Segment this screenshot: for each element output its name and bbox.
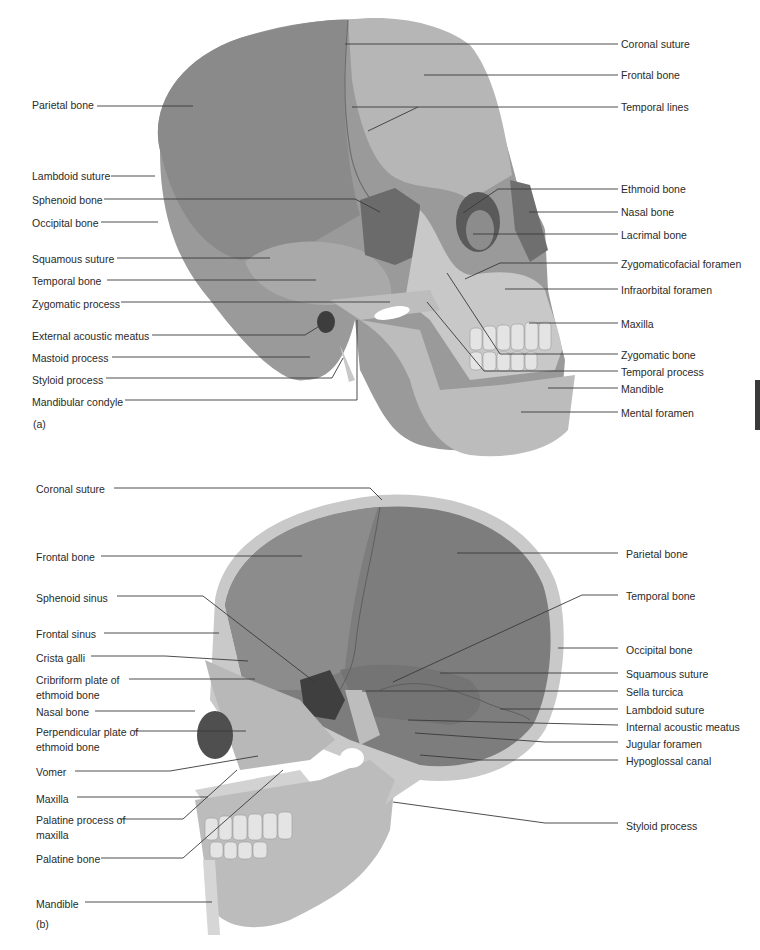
label-frontal-bone: Frontal bone bbox=[36, 551, 95, 564]
label-nasal-bone: Nasal bone bbox=[621, 206, 674, 219]
label-mandible: Mandible bbox=[36, 898, 79, 911]
label-parietal-bone: Parietal bone bbox=[626, 548, 688, 561]
skull-figure: Parietal boneLambdoid sutureSphenoid bon… bbox=[0, 0, 760, 950]
lateral-skull-view bbox=[158, 18, 575, 456]
label-mandible: Mandible bbox=[621, 383, 664, 396]
label-jugular-foramen: Jugular foramen bbox=[626, 738, 702, 751]
label-cribriform-plate-of-ethmoid-bone: Cribriform plate of ethmoid bone bbox=[36, 673, 146, 703]
label-internal-acoustic-meatus: Internal acoustic meatus bbox=[626, 721, 740, 734]
label-lambdoid-suture: Lambdoid suture bbox=[32, 170, 110, 183]
label-styloid-process: Styloid process bbox=[32, 374, 103, 387]
label-squamous-suture: Squamous suture bbox=[32, 253, 114, 266]
label-frontal-sinus: Frontal sinus bbox=[36, 628, 96, 641]
label-coronal-suture: Coronal suture bbox=[621, 38, 690, 51]
label-temporal-lines: Temporal lines bbox=[621, 101, 689, 114]
label-sella-turcica: Sella turcica bbox=[626, 686, 683, 699]
label-crista-galli: Crista galli bbox=[36, 652, 85, 665]
label-parietal-bone: Parietal bone bbox=[32, 99, 94, 112]
label-sphenoid-bone: Sphenoid bone bbox=[32, 194, 103, 207]
page-edge-tab bbox=[755, 380, 760, 430]
label-infraorbital-foramen: Infraorbital foramen bbox=[621, 284, 712, 297]
label-occipital-bone: Occipital bone bbox=[626, 644, 693, 657]
label-temporal-bone: Temporal bone bbox=[32, 275, 101, 288]
label-external-acoustic-meatus: External acoustic meatus bbox=[32, 330, 149, 343]
panel-a-tag: (a) bbox=[33, 418, 46, 430]
leader-line bbox=[75, 756, 258, 771]
label-perpendicular-plate-of-ethmoid-bone: Perpendicular plate of ethmoid bone bbox=[36, 725, 146, 755]
label-mental-foramen: Mental foramen bbox=[621, 407, 694, 420]
label-hypoglossal-canal: Hypoglossal canal bbox=[626, 755, 711, 768]
label-maxilla: Maxilla bbox=[36, 793, 69, 806]
label-coronal-suture: Coronal suture bbox=[36, 483, 105, 496]
label-palatine-process-of-maxilla: Palatine process of maxilla bbox=[36, 813, 146, 843]
skull-illustration bbox=[0, 0, 760, 950]
label-nasal-bone: Nasal bone bbox=[36, 706, 89, 719]
label-vomer: Vomer bbox=[36, 766, 66, 779]
label-maxilla: Maxilla bbox=[621, 318, 654, 331]
label-sphenoid-sinus: Sphenoid sinus bbox=[36, 592, 108, 605]
label-squamous-suture: Squamous suture bbox=[626, 668, 708, 681]
label-zygomatic-bone: Zygomatic bone bbox=[621, 349, 696, 362]
label-palatine-bone: Palatine bone bbox=[36, 853, 100, 866]
label-mandibular-condyle: Mandibular condyle bbox=[32, 396, 123, 409]
leader-line bbox=[114, 488, 382, 500]
sagittal-skull-view bbox=[195, 494, 564, 935]
label-frontal-bone: Frontal bone bbox=[621, 69, 680, 82]
label-zygomatic-process: Zygomatic process bbox=[32, 298, 120, 311]
label-lacrimal-bone: Lacrimal bone bbox=[621, 229, 687, 242]
label-zygomaticofacial-foramen: Zygomaticofacial foramen bbox=[621, 258, 741, 271]
label-temporal-process: Temporal process bbox=[621, 366, 704, 379]
label-styloid-process: Styloid process bbox=[626, 820, 697, 833]
leader-line bbox=[393, 802, 618, 823]
label-ethmoid-bone: Ethmoid bone bbox=[621, 183, 686, 196]
label-lambdoid-suture: Lambdoid suture bbox=[626, 704, 704, 717]
label-temporal-bone: Temporal bone bbox=[626, 590, 695, 603]
panel-b-tag: (b) bbox=[36, 918, 49, 930]
label-occipital-bone: Occipital bone bbox=[32, 217, 99, 230]
label-mastoid-process: Mastoid process bbox=[32, 352, 108, 365]
